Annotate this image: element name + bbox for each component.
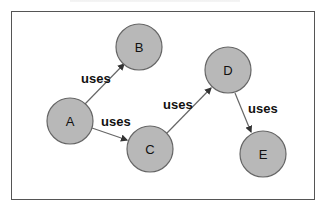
edge-a-c	[92, 128, 127, 140]
node-d: D	[205, 47, 251, 93]
node-c-label: C	[145, 142, 154, 157]
node-a: A	[47, 98, 93, 144]
node-e: E	[240, 131, 286, 177]
node-a-label: A	[66, 114, 75, 129]
node-d-label: D	[223, 63, 232, 78]
edge-label-c-d: uses	[163, 97, 193, 112]
edge-label-a-c: uses	[101, 114, 131, 129]
node-b-label: B	[135, 40, 144, 55]
node-b: B	[116, 24, 162, 70]
edge-label-a-b: uses	[81, 71, 111, 86]
node-c: C	[127, 126, 173, 172]
edge-label-d-e: uses	[248, 101, 278, 116]
graph-canvas: uses uses uses uses A B C D E	[0, 0, 325, 211]
node-e-label: E	[259, 147, 268, 162]
